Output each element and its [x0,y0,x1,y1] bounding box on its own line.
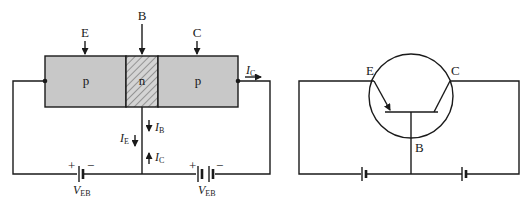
left-battery-plus: + [68,158,75,173]
symbol-emitter-label: E [366,63,374,78]
collector-region-label: p [195,73,202,88]
collector-lead [434,81,450,112]
symbol-collector-label: C [451,63,460,78]
left-battery-icon [79,166,83,182]
collector-loop-wire [450,81,519,174]
ib-label: IB [154,120,164,135]
right-battery-icon [198,166,213,182]
ic-base-label: IC [154,150,164,165]
ie-label: IE [119,131,129,146]
ic-output-label: IC [245,63,255,78]
right-battery-label: VEB [198,183,216,198]
collector-terminal-label: C [193,25,202,40]
symbol-base-label: B [415,140,424,155]
base-region-label: n [139,73,146,88]
right-battery-minus: − [216,158,223,173]
pnp-symbol-diagram: E C B [299,54,519,181]
collector-contact-dot [236,79,241,84]
emitter-arrow-icon [374,81,390,110]
right-battery-plus: + [189,158,196,173]
collector-battery-icon [462,167,466,181]
left-battery-minus: − [87,158,94,173]
emitter-loop-wire [299,81,374,174]
emitter-region-label: p [83,73,90,88]
pnp-structure-diagram: p n p E B C IC IB IE IC + − VEB [13,8,270,198]
left-battery-label: VEB [73,183,91,198]
base-terminal-label: B [138,8,147,23]
emitter-terminal-label: E [81,25,89,40]
pnp-transistor-figure: p n p E B C IC IB IE IC + − VEB [0,0,529,206]
emitter-battery-icon [362,167,366,181]
emitter-contact-dot [43,79,48,84]
